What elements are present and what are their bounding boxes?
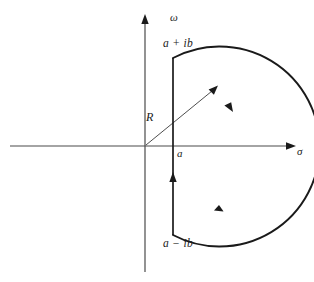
radius-line bbox=[146, 86, 218, 146]
label-radius-R: R bbox=[146, 111, 153, 123]
omega-axis-label: ω bbox=[170, 12, 178, 23]
radius-line-arrowhead bbox=[209, 86, 218, 95]
diagram-canvas bbox=[0, 0, 314, 282]
sigma-axis-label: σ bbox=[297, 146, 302, 157]
radius-line-stroke bbox=[146, 91, 212, 145]
omega-axis-arrowhead bbox=[141, 14, 148, 24]
bromwich-contour-figure: ω σ a + ib a − ib R a bbox=[0, 0, 314, 282]
contour-vertical-arrowhead bbox=[169, 172, 176, 182]
label-a-minus-ib: a − ib bbox=[163, 238, 193, 250]
sigma-axis-arrowhead bbox=[286, 142, 296, 149]
contour-arc-arrowhead-upper bbox=[224, 102, 233, 112]
omega-axis bbox=[141, 14, 148, 272]
sigma-axis bbox=[10, 142, 296, 149]
label-abscissa-a: a bbox=[177, 148, 183, 159]
label-a-plus-ib: a + ib bbox=[163, 38, 193, 50]
contour-arc-arrowhead-lower bbox=[214, 205, 224, 212]
